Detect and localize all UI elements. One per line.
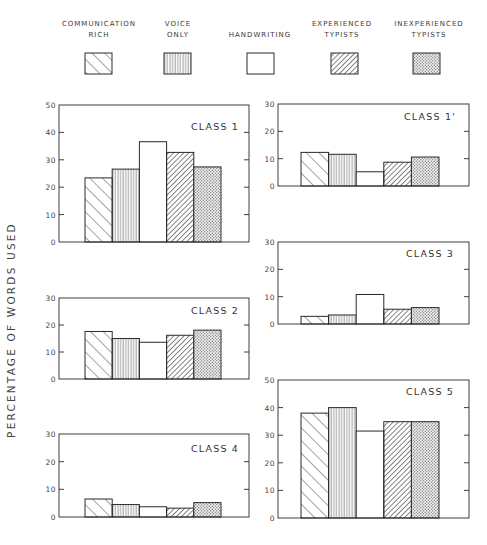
legend-swatch-inexperienced-typists <box>413 53 440 74</box>
y-tick-label: 40 <box>45 128 56 137</box>
y-tick-label: 10 <box>45 348 56 357</box>
legend-label-experienced-typists: EXPERIENCED TYPISTS <box>300 19 384 41</box>
bar-inexperienced-typists <box>411 422 439 518</box>
chart-title: CLASS 3 <box>406 248 454 259</box>
legend-swatch-communication-rich <box>85 53 112 74</box>
bar-inexperienced-typists <box>411 308 439 324</box>
y-tick-label: 50 <box>45 101 56 110</box>
bar-voice-only <box>329 315 357 324</box>
y-tick-label: 10 <box>45 485 56 494</box>
y-axis-label: PERCENTAGE OF WORDS USED <box>5 222 17 438</box>
bar-inexperienced-typists <box>194 167 221 242</box>
bar-inexperienced-typists <box>194 330 221 379</box>
chart-title: CLASS 2 <box>191 305 239 316</box>
bar-voice-only <box>329 154 357 186</box>
bar-communication-rich <box>85 499 112 517</box>
bar-experienced-typists <box>167 152 194 242</box>
y-tick-label: 20 <box>45 321 56 330</box>
legend-label-inexperienced-typists: INEXPERIENCED TYPISTS <box>385 19 473 41</box>
legend-swatch-handwriting <box>247 53 274 74</box>
y-tick-label: 0 <box>51 375 56 384</box>
y-tick-label: 10 <box>45 211 56 220</box>
figure: 01020304050CLASS 10102030CLASS 1'0102030… <box>0 0 487 545</box>
chart-class-1-prime: 0102030CLASS 1' <box>264 100 469 191</box>
y-tick-label: 30 <box>264 431 275 440</box>
y-tick-label: 30 <box>45 294 56 303</box>
bar-handwriting <box>356 172 384 186</box>
legend-swatch-voice-only <box>164 53 191 74</box>
y-tick-label: 10 <box>264 486 275 495</box>
bar-experienced-typists <box>384 162 412 186</box>
legend-swatch-experienced-typists <box>331 53 358 74</box>
bar-experienced-typists <box>167 508 194 517</box>
bar-voice-only <box>112 505 139 517</box>
bar-communication-rich <box>301 152 329 186</box>
y-tick-label: 0 <box>51 238 56 247</box>
y-tick-label: 0 <box>51 513 56 522</box>
legend <box>85 53 440 74</box>
bar-inexperienced-typists <box>194 503 221 517</box>
y-tick-label: 20 <box>45 183 56 192</box>
legend-label-handwriting: HANDWRITING <box>220 30 300 41</box>
y-tick-label: 20 <box>264 459 275 468</box>
chart-class-3: 0102030CLASS 3 <box>264 238 469 329</box>
bar-handwriting <box>139 342 166 379</box>
y-tick-label: 30 <box>45 156 56 165</box>
bar-experienced-typists <box>384 422 412 518</box>
bar-communication-rich <box>301 413 329 518</box>
y-tick-label: 0 <box>270 182 275 191</box>
chart-title: CLASS 1' <box>404 111 456 122</box>
bar-voice-only <box>112 169 139 242</box>
y-tick-label: 20 <box>45 458 56 467</box>
bar-handwriting <box>356 431 384 518</box>
bar-communication-rich <box>85 331 112 379</box>
legend-label-voice-only: VOICE ONLY <box>148 19 208 41</box>
bar-handwriting <box>139 142 166 242</box>
y-tick-label: 0 <box>270 320 275 329</box>
chart-class-2: 0102030CLASS 2 <box>45 294 249 384</box>
bar-handwriting <box>356 294 384 324</box>
chart-title: CLASS 1 <box>191 121 239 132</box>
bar-communication-rich <box>301 316 329 324</box>
bar-voice-only <box>329 408 357 518</box>
chart-canvas: 01020304050CLASS 10102030CLASS 1'0102030… <box>0 0 487 545</box>
chart-title: CLASS 5 <box>406 386 454 397</box>
y-tick-label: 30 <box>45 430 56 439</box>
bar-communication-rich <box>85 178 112 242</box>
y-tick-label: 0 <box>270 514 275 523</box>
bar-voice-only <box>112 339 139 380</box>
y-tick-label: 10 <box>264 155 275 164</box>
chart-class-1: 01020304050CLASS 1 <box>45 101 249 247</box>
y-tick-label: 10 <box>264 293 275 302</box>
legend-label-communication-rich: COMMUNICATION RICH <box>52 19 146 41</box>
y-tick-label: 40 <box>264 404 275 413</box>
chart-title: CLASS 4 <box>191 443 239 454</box>
y-tick-label: 20 <box>264 127 275 136</box>
bar-experienced-typists <box>384 309 412 324</box>
bar-experienced-typists <box>167 335 194 379</box>
y-tick-label: 50 <box>264 376 275 385</box>
y-tick-label: 30 <box>264 100 275 109</box>
charts: 01020304050CLASS 10102030CLASS 1'0102030… <box>45 100 469 523</box>
bar-inexperienced-typists <box>411 157 439 186</box>
y-tick-label: 20 <box>264 265 275 274</box>
y-tick-label: 30 <box>264 238 275 247</box>
chart-class-5: 01020304050CLASS 5 <box>264 376 469 523</box>
chart-class-4: 0102030CLASS 4 <box>45 430 249 522</box>
bar-handwriting <box>139 507 166 517</box>
